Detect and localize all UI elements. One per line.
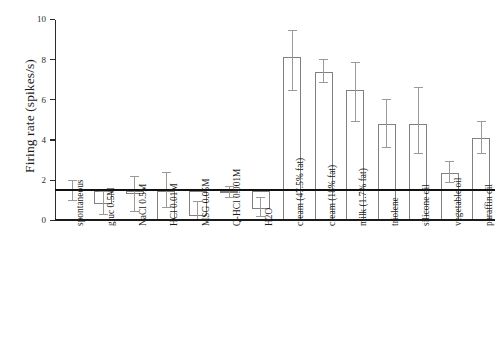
y-tick-8: 8 [50, 59, 55, 60]
error-bar [449, 162, 450, 183]
x-axis-label: cream (18% fat) [328, 165, 337, 226]
error-bar [481, 122, 482, 154]
error-bar [355, 63, 356, 121]
x-axis-label: NaCl 0.5M [139, 184, 148, 226]
y-tick-label: 6 [42, 95, 47, 104]
error-bar [292, 31, 293, 91]
error-cap-upper [162, 172, 171, 173]
x-axis-label: milk (1.7% fat) [359, 168, 368, 226]
y-tick-label: 0 [42, 216, 47, 225]
error-bar [134, 177, 135, 212]
y-tick-label: 8 [42, 55, 47, 64]
error-cap-upper [130, 176, 139, 177]
error-cap-lower [414, 153, 423, 154]
error-bar [103, 192, 104, 215]
x-axis-label: HCl 0.01M [170, 183, 179, 226]
x-axis-label: Q-HCl 0.001M [233, 169, 242, 226]
error-cap-upper [414, 87, 423, 88]
error-bar [418, 88, 419, 153]
y-tick-label: 10 [37, 15, 46, 24]
error-cap-lower [351, 121, 360, 122]
error-cap-lower [288, 90, 297, 91]
error-cap-upper [445, 161, 454, 162]
y-tick-2: 2 [50, 180, 55, 181]
error-cap-lower [477, 153, 486, 154]
x-axis-label: H2O [265, 208, 274, 226]
x-axis-label: spontaneous [76, 179, 85, 226]
x-axis-label: silicone oil [422, 184, 431, 226]
x-axis-label: MSG 0.05M [202, 179, 211, 226]
x-axis-label: gluc 0.5M [107, 187, 116, 226]
error-bar [197, 202, 198, 220]
y-axis-title: Firing rate (spikes/s) [22, 26, 38, 206]
error-cap-lower [319, 82, 328, 83]
x-axis-label: triolene [391, 197, 400, 226]
error-bar [323, 60, 324, 83]
y-tick-label: 4 [42, 136, 47, 145]
x-axis-label: cream (47.5% fat) [296, 158, 305, 226]
error-cap-upper [351, 62, 360, 63]
error-bar [386, 100, 387, 147]
error-cap-upper [319, 59, 328, 60]
error-bar [72, 181, 73, 201]
error-bar [260, 198, 261, 217]
y-tick-label: 2 [42, 176, 47, 185]
error-cap-upper [477, 121, 486, 122]
error-cap-lower [382, 147, 391, 148]
error-cap-upper [288, 30, 297, 31]
x-axis-label: paraffin oil [485, 184, 494, 226]
y-tick-4: 4 [50, 139, 55, 140]
firing-rate-bar-chart: Firing rate (spikes/s) 0246810 spontaneo… [0, 0, 504, 342]
x-axis-label: vegetable oil [454, 178, 463, 226]
y-tick-6: 6 [50, 99, 55, 100]
error-cap-upper [256, 197, 265, 198]
y-tick-10: 10 [50, 19, 55, 20]
error-cap-upper [382, 99, 391, 100]
